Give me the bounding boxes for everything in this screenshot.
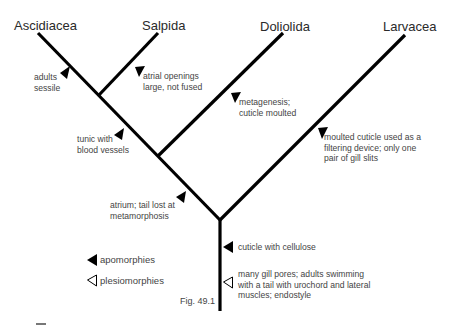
apomorphy-marker-icon [176,191,186,203]
legend-apomorphy-icon [87,254,97,266]
character-atrial-openings: atrial openings large, not fused [143,71,202,92]
branch-ascidiacea-line [38,33,220,220]
taxon-label-larvacea: Larvacea [383,20,436,33]
character-many-gill-pores: many gill pores; adults swimming with a … [238,269,370,301]
character-adults-sessile: adults sessile [34,72,60,93]
legend-apomorphies-label: apomorphies [100,255,155,265]
cutoff-caption-fragment [0,316,450,325]
cutoff-text-fragment-icon [0,321,450,325]
legend-plesiomorphy-icon [88,275,97,286]
branch-doliolida-line [158,33,283,156]
apomorphy-marker-icon [223,241,233,253]
taxon-label-salpida: Salpida [142,19,185,32]
character-atrium-tail-lost: atrium; tail lost at metamorphosis [110,200,175,221]
branch-larvacea-line [220,35,405,220]
character-cuticle-cellulose: cuticle with cellulose [238,242,316,253]
apomorphy-marker-icon [60,66,70,79]
character-metagenesis: metagenesis; cuticle moulted [239,97,296,118]
plesiomorphy-marker-icon [224,277,233,288]
figure-label: Fig. 49.1 [180,297,215,306]
character-tunic-blood-vessels: tunic with blood vessels [77,134,129,155]
character-moulted-cuticle: moulted cuticle used as a filtering devi… [324,132,421,164]
legend-plesiomorphies-label: plesiomorphies [100,276,164,286]
taxon-label-doliolida: Doliolida [260,20,310,33]
taxon-label-ascidiacea: Ascidiacea [14,19,77,32]
